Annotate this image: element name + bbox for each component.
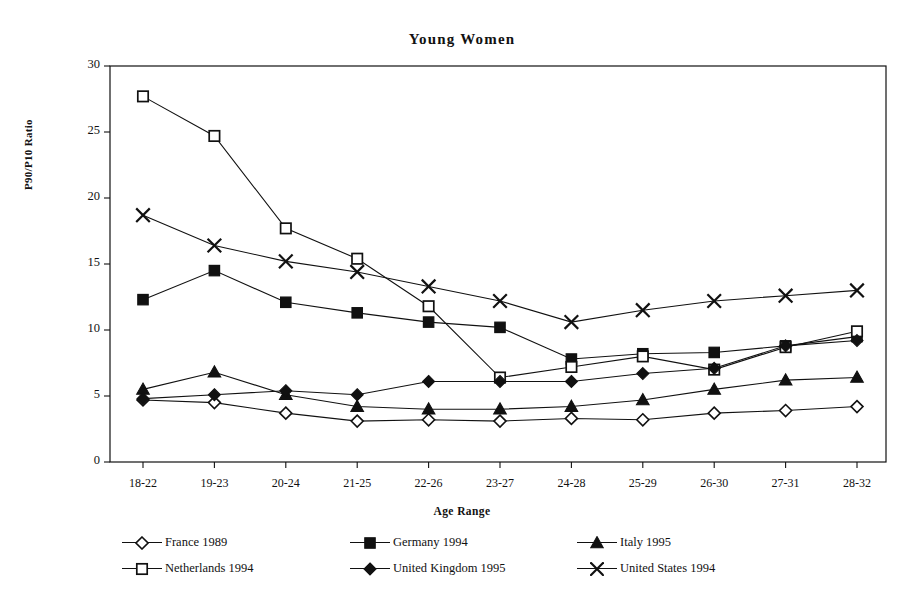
marker-filled-triangle	[208, 366, 221, 377]
legend-marker-cross-icon	[577, 562, 617, 576]
series-netherlands-1994	[138, 91, 862, 383]
chart-figure: Young Women P90/P10 Ratio 051015202530 1…	[0, 0, 924, 615]
legend-item[interactable]: Italy 1995	[577, 535, 671, 550]
legend-marker-filled-triangle-icon	[577, 536, 617, 550]
marker-open-diamond	[565, 412, 577, 424]
marker-open-diamond	[423, 414, 435, 426]
legend-item[interactable]: Germany 1994	[350, 535, 468, 550]
plot-canvas	[0, 0, 924, 615]
legend-label: Netherlands 1994	[165, 561, 254, 576]
marker-open-diamond	[351, 415, 363, 427]
marker-open-square	[209, 131, 219, 141]
series-united-states-1994	[136, 208, 864, 329]
legend-label: Italy 1995	[620, 535, 671, 550]
legend-label: France 1989	[165, 535, 227, 550]
marker-open-diamond	[280, 407, 292, 419]
legend-marker-filled-square-icon	[350, 536, 390, 550]
legend-label: United States 1994	[620, 561, 715, 576]
legend-item[interactable]: Netherlands 1994	[122, 561, 254, 576]
plot-frame	[110, 66, 886, 462]
marker-filled-square	[281, 297, 291, 307]
legend-item[interactable]: United States 1994	[577, 561, 715, 576]
legend-glyph	[590, 562, 604, 576]
marker-open-square	[281, 223, 291, 233]
marker-open-square	[137, 563, 147, 573]
marker-filled-square	[352, 308, 362, 318]
legend-row: France 1989Germany 1994Italy 1995	[122, 535, 802, 559]
marker-filled-diamond	[565, 375, 577, 387]
legend-item[interactable]: France 1989	[122, 535, 227, 550]
marker-filled-diamond	[364, 563, 376, 575]
series-line	[143, 96, 857, 377]
marker-filled-square	[138, 294, 148, 304]
marker-open-square	[638, 351, 648, 361]
marker-filled-square	[709, 347, 719, 357]
marker-filled-diamond	[423, 375, 435, 387]
marker-filled-square	[365, 537, 375, 547]
marker-open-square	[423, 301, 433, 311]
legend-marker-filled-diamond-icon	[350, 562, 390, 576]
legend-glyph	[363, 562, 377, 576]
series-line	[143, 215, 857, 322]
marker-open-diamond	[780, 405, 792, 417]
legend-marker-open-square-icon	[122, 562, 162, 576]
series-line	[143, 271, 857, 359]
series-germany-1994	[138, 265, 862, 364]
legend-glyph	[135, 536, 149, 550]
marker-filled-diamond	[351, 389, 363, 401]
marker-filled-diamond	[208, 389, 220, 401]
x-axis-label: Age Range	[0, 505, 924, 517]
marker-filled-square	[423, 317, 433, 327]
marker-open-diamond	[136, 537, 148, 549]
legend-glyph	[590, 536, 604, 550]
marker-open-square	[566, 362, 576, 372]
marker-open-diamond	[851, 401, 863, 413]
marker-filled-square	[209, 265, 219, 275]
marker-filled-triangle	[422, 403, 435, 414]
legend-glyph	[135, 562, 149, 576]
marker-filled-triangle	[591, 536, 604, 547]
marker-open-square	[138, 91, 148, 101]
legend-glyph	[363, 536, 377, 550]
marker-filled-triangle	[494, 403, 507, 414]
series-united-kingdom-1995	[137, 335, 863, 405]
marker-filled-triangle	[851, 371, 864, 382]
chart-legend: France 1989Germany 1994Italy 1995Netherl…	[122, 535, 802, 591]
legend-item[interactable]: United Kingdom 1995	[350, 561, 506, 576]
marker-open-diamond	[637, 414, 649, 426]
legend-row: Netherlands 1994United Kingdom 1995Unite…	[122, 561, 802, 585]
legend-marker-open-diamond-icon	[122, 536, 162, 550]
legend-label: Germany 1994	[393, 535, 468, 550]
marker-filled-triangle	[779, 374, 792, 385]
marker-open-square	[352, 254, 362, 264]
marker-filled-square	[495, 322, 505, 332]
legend-label: United Kingdom 1995	[393, 561, 506, 576]
marker-filled-diamond	[637, 368, 649, 380]
marker-open-diamond	[494, 415, 506, 427]
marker-open-diamond	[708, 407, 720, 419]
